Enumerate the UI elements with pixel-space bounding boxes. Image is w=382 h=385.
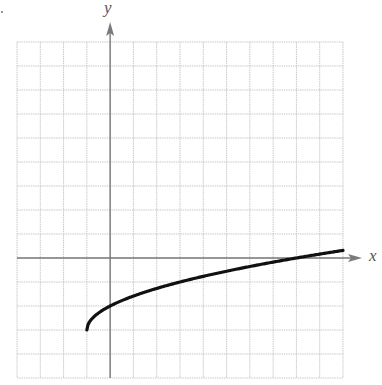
x-axis-label: x [369,246,377,266]
grid [17,42,343,378]
y-axis-label: y [104,0,112,18]
graph-plot [0,0,382,385]
axes [17,22,362,378]
function-curve [87,250,343,330]
corner-mark [1,11,3,13]
